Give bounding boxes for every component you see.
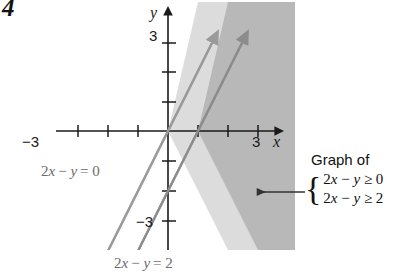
inequality-1: 2x − y ≥ 0 bbox=[323, 170, 383, 189]
legend-block: Graph of { 2x − y ≥ 0 2x − y ≥ 2 bbox=[311, 150, 407, 208]
line2-coef: 2 bbox=[114, 255, 122, 271]
ineq1-coef: 2 bbox=[323, 171, 331, 187]
ineq2-minus: − bbox=[338, 190, 354, 206]
ineq2-var-x: x bbox=[331, 190, 338, 206]
legend-title: Graph of bbox=[311, 150, 407, 169]
line2-minus: − bbox=[131, 255, 143, 271]
line2-var-y: y bbox=[143, 255, 150, 271]
line2-var-x: x bbox=[122, 255, 129, 271]
y-axis-tick-label-neg3: −3 bbox=[136, 213, 153, 230]
system-of-inequalities: { 2x − y ≥ 0 2x − y ≥ 2 bbox=[311, 170, 407, 208]
line1-coef: 2 bbox=[41, 163, 49, 179]
brace-icon: { bbox=[305, 175, 321, 203]
coordinate-plane bbox=[0, 0, 407, 280]
line2-eq: = 2 bbox=[153, 255, 173, 271]
line1-eq: = 0 bbox=[80, 163, 100, 179]
line1-minus: − bbox=[58, 163, 70, 179]
ineq1-rel: ≥ 0 bbox=[360, 171, 383, 187]
line-label-2x-minus-y-eq-2: 2x − y = 2 bbox=[114, 255, 173, 272]
ineq1-var-x: x bbox=[331, 171, 338, 187]
y-axis-variable-label: y bbox=[150, 4, 157, 22]
x-axis-variable-label: x bbox=[273, 133, 280, 151]
ineq2-rel: ≥ 2 bbox=[360, 190, 383, 206]
line-label-2x-minus-y-eq-0: 2x − y = 0 bbox=[41, 163, 100, 180]
x-axis-tick-label-neg3: −3 bbox=[22, 133, 39, 150]
inequality-2: 2x − y ≥ 2 bbox=[323, 189, 383, 208]
shaded-regions bbox=[60, 2, 295, 252]
figure-container: 4 bbox=[0, 0, 407, 280]
y-axis-tick-label-3: 3 bbox=[149, 27, 157, 44]
ineq1-minus: − bbox=[338, 171, 354, 187]
line1-var-y: y bbox=[70, 163, 77, 179]
ineq2-coef: 2 bbox=[323, 190, 331, 206]
line1-var-x: x bbox=[49, 163, 56, 179]
x-axis-tick-label-3: 3 bbox=[252, 133, 260, 150]
inequality-list: 2x − y ≥ 0 2x − y ≥ 2 bbox=[323, 170, 383, 208]
